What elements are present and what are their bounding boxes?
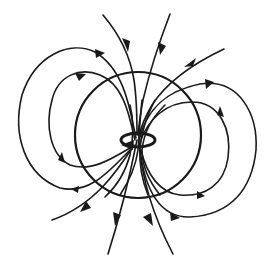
arrow-up-icon (58, 152, 65, 163)
arrow-up-icon (217, 106, 224, 117)
arrow-down-icon (143, 213, 153, 226)
arrow-right-icon (75, 73, 86, 81)
arrow-left-icon (71, 186, 79, 193)
magnetic-field-diagram (0, 0, 266, 273)
right-field-loops (139, 79, 256, 221)
arrow-right-icon (95, 49, 105, 58)
arrow-down-left-icon (80, 201, 91, 212)
arrow-down-icon (158, 42, 166, 55)
